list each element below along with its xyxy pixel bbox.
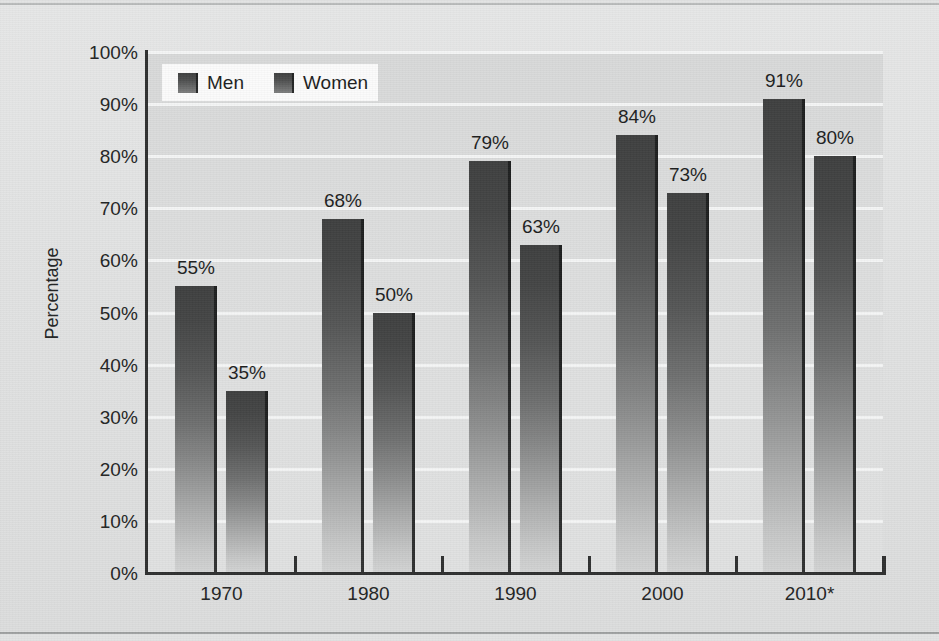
y-axis-title: Percentage	[42, 204, 63, 384]
bar-women-1990[interactable]	[520, 245, 562, 573]
bar-women-1980[interactable]	[373, 313, 415, 574]
y-axis-line	[145, 50, 148, 575]
data-label: 80%	[794, 128, 876, 147]
legend-label-men: Men	[207, 73, 244, 92]
x-axis-category-tick	[588, 556, 591, 575]
x-tick-label-1970: 1970	[148, 583, 295, 605]
data-label: 68%	[302, 191, 384, 210]
data-label: 50%	[353, 285, 435, 304]
legend-label-women: Women	[303, 73, 368, 92]
x-tick-label-2010: 2010*	[736, 583, 883, 605]
y-tick-label: 90%	[38, 95, 138, 114]
x-axis-line	[145, 572, 886, 575]
y-tick-label: 100%	[38, 43, 138, 62]
legend-entry-men[interactable]: Men	[178, 64, 244, 101]
bar-women-2010[interactable]	[814, 156, 856, 573]
y-tick-label: 0%	[38, 564, 138, 583]
bar-women-1970[interactable]	[226, 391, 268, 573]
bar-series-container	[148, 52, 883, 573]
y-tick-label: 10%	[38, 512, 138, 531]
bar-men-1970[interactable]	[175, 286, 217, 573]
legend-swatch-men-icon	[178, 73, 198, 93]
data-label: 84%	[596, 107, 678, 126]
x-axis-category-tick	[882, 556, 885, 575]
data-label: 91%	[743, 71, 825, 90]
x-axis-category-tick	[735, 556, 738, 575]
bar-women-2000[interactable]	[667, 193, 709, 573]
data-label: 35%	[206, 363, 288, 382]
x-tick-label-1980: 1980	[295, 583, 442, 605]
x-tick-label-2000: 2000	[589, 583, 736, 605]
bar-men-2000[interactable]	[616, 135, 658, 573]
legend-swatch-women-icon	[274, 73, 294, 93]
data-label: 73%	[647, 165, 729, 184]
y-tick-label: 30%	[38, 408, 138, 427]
bar-men-1980[interactable]	[322, 219, 364, 573]
x-tick-label-1990: 1990	[442, 583, 589, 605]
y-tick-label: 20%	[38, 460, 138, 479]
data-label: 79%	[449, 133, 531, 152]
legend-entry-women[interactable]: Women	[274, 64, 368, 101]
chart-figure: 100%90%80%70%60%50%40%30%20%10%0% Percen…	[0, 0, 939, 641]
legend: Men Women	[162, 64, 378, 101]
y-tick-label: 80%	[38, 147, 138, 166]
x-axis-category-tick	[441, 556, 444, 575]
bar-men-2010[interactable]	[763, 99, 805, 573]
data-label: 63%	[500, 217, 582, 236]
plot-area	[148, 52, 883, 573]
data-label: 55%	[155, 258, 237, 277]
x-axis-category-tick	[294, 556, 297, 575]
